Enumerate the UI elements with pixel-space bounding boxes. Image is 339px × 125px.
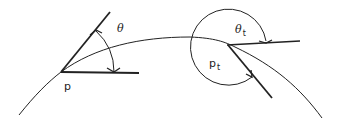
reference-line-p: [61, 72, 139, 73]
tangent-line-p: [61, 12, 110, 72]
reference-line-pt: [227, 41, 300, 45]
tangent-line-pt: [228, 45, 272, 98]
diagram-svg: [0, 0, 339, 125]
angle-arc-theta-t: [190, 9, 266, 85]
label-angle-theta-t: θt: [235, 24, 246, 35]
label-point-pt: pt: [209, 58, 220, 69]
label-angle-theta: θ: [117, 23, 124, 34]
arrowhead-theta-top: [90, 30, 102, 35]
main-curve: [19, 37, 322, 118]
diagram-canvas: p θ θt pt: [0, 0, 339, 125]
label-point-p: p: [64, 81, 71, 92]
